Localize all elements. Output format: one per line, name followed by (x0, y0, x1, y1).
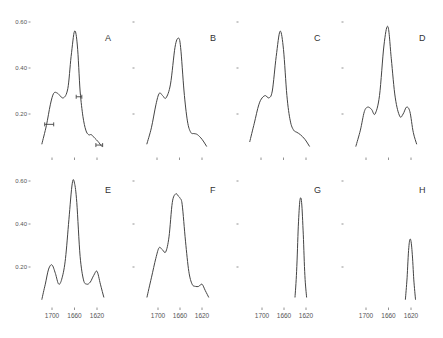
x-tick-label: 1660 (67, 312, 82, 319)
panel-label: B (210, 33, 216, 43)
x-tick-label: 1660 (381, 312, 396, 319)
panel-b: B (133, 22, 217, 160)
x-tick-label: 1660 (173, 312, 188, 319)
x-tick-label: 1700 (359, 312, 374, 319)
y-tick-label: 0.40 (15, 221, 27, 227)
x-tick-label: 1700 (45, 312, 60, 319)
spectrum-curve-d (356, 26, 417, 146)
panel-f: 170016601620F (133, 181, 217, 319)
panel-label: H (419, 185, 426, 195)
spectrum-curve-b (147, 38, 207, 146)
panel-label: C (314, 33, 321, 43)
y-tick-label: 0.60 (15, 19, 27, 25)
y-tick-label: 0.20 (15, 264, 27, 270)
spectra-figure: 0.600.400.20ABCD0.600.400.20170016601620… (0, 0, 443, 338)
panel-h: 170016601620H (342, 181, 426, 319)
x-tick-label: 1620 (404, 312, 419, 319)
spectrum-curve-g (295, 198, 307, 297)
y-tick-label: 0.20 (15, 111, 27, 117)
y-tick-label: 0.40 (15, 65, 27, 71)
x-tick-label: 1700 (151, 312, 166, 319)
panel-d: D (342, 22, 427, 160)
panel-label: E (105, 185, 111, 195)
panel-label: D (419, 33, 426, 43)
x-tick-label: 1620 (299, 312, 314, 319)
spectra-panels-svg: 0.600.400.20ABCD0.600.400.20170016601620… (0, 0, 443, 338)
x-tick-label: 1620 (195, 312, 210, 319)
panel-g: 170016601620G (237, 181, 322, 319)
panel-label: F (210, 185, 216, 195)
x-tick-label: 1660 (277, 312, 292, 319)
spectrum-curve-f (147, 194, 209, 297)
spectrum-curve-h (405, 239, 415, 299)
y-tick-label: 0.60 (15, 178, 27, 184)
spectrum-curve-e (42, 180, 104, 300)
panel-label: A (105, 33, 111, 43)
panel-c: C (237, 22, 322, 160)
x-tick-label: 1700 (255, 312, 270, 319)
spectrum-curve-c (250, 31, 310, 146)
panel-a: 0.600.400.20A (15, 19, 111, 160)
panel-e: 0.600.400.20170016601620E (15, 178, 111, 319)
spectrum-curve-a (42, 31, 102, 146)
panel-label: G (314, 185, 321, 195)
x-tick-label: 1620 (90, 312, 105, 319)
